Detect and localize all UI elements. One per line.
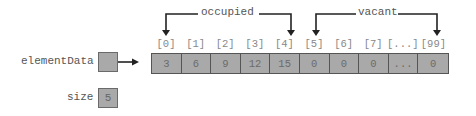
- size-value-box: 5: [98, 88, 118, 108]
- array-cell: 15: [270, 54, 300, 73]
- array-cell-ellipsis: ...: [389, 54, 419, 73]
- size-label: size: [67, 91, 93, 103]
- index-label: [7]: [358, 38, 388, 50]
- index-label: [4]: [269, 38, 299, 50]
- arrowhead-icon: [433, 30, 441, 36]
- index-label: [...]: [387, 38, 419, 50]
- vacant-label: vacant: [358, 6, 398, 18]
- element-data-pointer-box: [98, 52, 118, 72]
- index-label: [1]: [181, 38, 211, 50]
- index-label: [0]: [151, 38, 181, 50]
- index-label: [5]: [299, 38, 329, 50]
- occupied-label: occupied: [201, 6, 254, 18]
- array-cell: 12: [241, 54, 271, 73]
- element-data-array: 3 6 9 12 15 0 0 0 ... 0: [151, 53, 449, 74]
- array-cell: 9: [211, 54, 241, 73]
- arrowhead-icon: [162, 30, 170, 36]
- arrowhead-icon: [132, 59, 139, 66]
- arrowhead-icon: [287, 30, 295, 36]
- array-cell: 0: [330, 54, 360, 73]
- array-cell: 0: [300, 54, 330, 73]
- index-label: [2]: [210, 38, 240, 50]
- array-cell: 0: [418, 54, 448, 73]
- index-label: [99]: [418, 38, 448, 50]
- arrowhead-icon: [312, 30, 320, 36]
- array-cell: 0: [359, 54, 389, 73]
- index-label: [6]: [329, 38, 359, 50]
- array-cell: 6: [182, 54, 212, 73]
- array-cell: 3: [152, 54, 182, 73]
- index-label: [3]: [240, 38, 270, 50]
- element-data-label: elementData: [21, 55, 94, 67]
